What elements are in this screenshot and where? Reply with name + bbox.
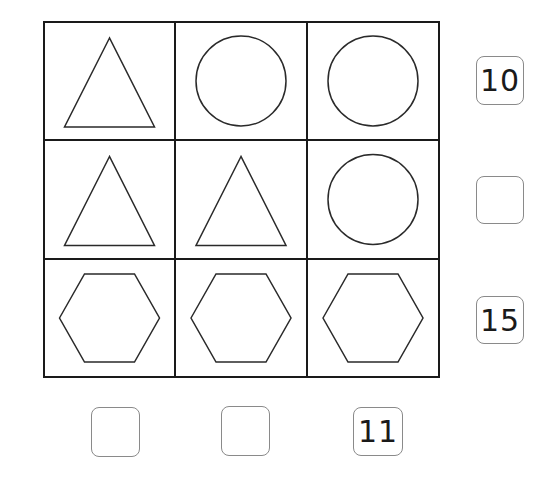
- hexagon-shape-r3c2: [191, 274, 291, 362]
- circle-shape-r1c3: [328, 36, 418, 126]
- hexagon-shape-r3c1: [60, 274, 160, 362]
- hexagon-shape-r3c3: [323, 274, 423, 362]
- shape-grid: [0, 0, 554, 487]
- row-1-sum-value: 10: [480, 63, 520, 98]
- row-3-sum-box[interactable]: 15: [476, 296, 524, 344]
- triangle-shape-r2c1: [65, 157, 155, 246]
- row-3-sum-value: 15: [480, 303, 520, 338]
- row-1-sum-box[interactable]: 10: [476, 56, 524, 105]
- grid-lines: [44, 22, 439, 377]
- col-3-sum-box[interactable]: 11: [353, 407, 403, 456]
- triangle-shape-r1c1: [65, 38, 155, 127]
- row-2-sum-box[interactable]: [476, 176, 524, 224]
- col-3-sum-value: 11: [358, 414, 398, 449]
- col-1-sum-box[interactable]: [91, 407, 140, 457]
- circle-shape-r1c2: [196, 36, 286, 126]
- circle-shape-r2c3: [328, 155, 418, 245]
- triangle-shape-r2c2: [196, 157, 286, 246]
- col-2-sum-box[interactable]: [221, 406, 270, 456]
